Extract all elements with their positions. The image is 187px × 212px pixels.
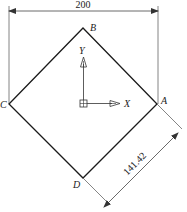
side-dimension: 141.42: [83, 104, 182, 207]
vertex-label-b: B: [90, 22, 96, 33]
side-dimension-value: 141.42: [121, 150, 148, 177]
technical-drawing: 200 B A C D Y X 141.42: [0, 0, 187, 212]
vertex-label-c: C: [0, 99, 7, 110]
width-dimension-value: 200: [76, 0, 91, 10]
side-dimension-line: [104, 133, 178, 207]
coordinate-system: Y X: [79, 45, 131, 109]
side-extension-line-d: [83, 178, 108, 203]
vertex-label-a: A: [160, 95, 168, 106]
vertex-label-d: D: [72, 179, 81, 190]
x-axis-label: X: [123, 98, 131, 109]
side-extension-line-a: [157, 104, 182, 129]
y-axis-label: Y: [79, 45, 86, 56]
drawing-canvas: 200 B A C D Y X 141.42: [0, 0, 187, 212]
